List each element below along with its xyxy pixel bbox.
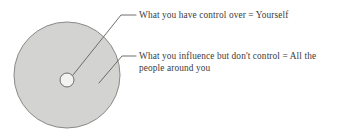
inner-control-circle: [60, 73, 74, 87]
callout-control-label: What you have control over = Yourself: [139, 9, 339, 21]
callout-influence-label: What you influence but don't control = A…: [139, 50, 337, 74]
circle-of-control-diagram: What you have control over = Yourself Wh…: [0, 0, 342, 138]
